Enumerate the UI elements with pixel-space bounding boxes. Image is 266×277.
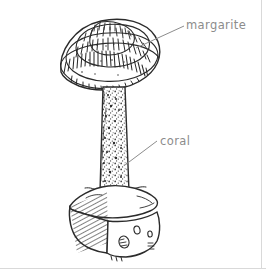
leader-line-coral [125,141,157,165]
mushroom-cap [61,19,162,92]
mushroom-illustration [0,0,266,277]
label-coral: coral [160,136,190,148]
frame-bottom-rule [0,268,266,269]
frame-right-rule [261,0,262,269]
illustration-canvas: margarite coral [0,0,266,277]
rock-base [62,185,160,261]
label-margarite: margarite [186,20,246,32]
mushroom-stem [98,86,132,196]
